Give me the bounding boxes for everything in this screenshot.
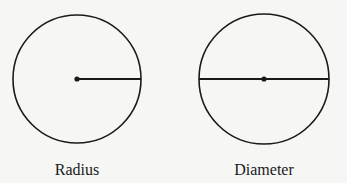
radius-label: Radius bbox=[17, 160, 137, 180]
diameter-center-point bbox=[261, 76, 266, 81]
radius-figure bbox=[13, 15, 141, 143]
figure-canvas: Radius Diameter bbox=[0, 0, 347, 183]
diameter-figure bbox=[199, 14, 329, 144]
circles-diagram bbox=[0, 0, 347, 183]
diameter-label: Diameter bbox=[204, 160, 324, 180]
radius-center-point bbox=[74, 76, 79, 81]
